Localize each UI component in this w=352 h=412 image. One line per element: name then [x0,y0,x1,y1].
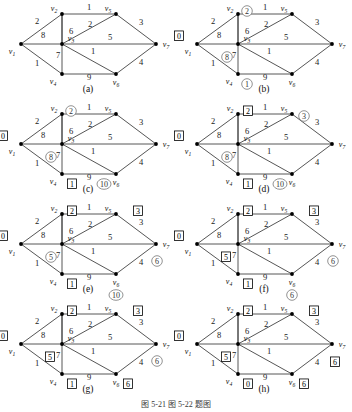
edge-weight-v6-v7: 4 [139,57,144,67]
panel-caption-b: (b) [176,84,352,94]
distance-value: 2 [69,107,73,116]
node-label-v5: v5 [105,104,112,114]
distance-label-f-v2: 2 [244,206,253,216]
edge-weight-v5-v7: 3 [315,117,319,127]
edge-weight-v2-v5: 1 [263,202,267,212]
edge-v5-v7 [116,314,156,344]
distance-label-g-v3: 5 [46,352,55,362]
distance-value: 5 [224,253,228,262]
node-label-v2: v2 [227,304,234,314]
node-label-v7: v7 [339,340,346,350]
node-v5 [114,212,118,216]
node-label-v2: v2 [51,204,58,214]
edge-weight-v3-v4: 7 [56,250,60,260]
distance-value: 8 [225,153,229,162]
edge-weight-v1-v4: 1 [211,158,215,168]
node-v1 [195,242,199,246]
edge-weight-v3-v4: 7 [232,50,236,60]
edge-weight-v1-v3: 8 [217,30,221,40]
node-label-v7: v7 [163,40,170,50]
edge-weight-v3-v7: 5 [108,332,112,342]
edge-weight-v6-v7: 4 [315,57,320,67]
node-label-v7: v7 [163,340,170,350]
node-label-v2: v2 [227,204,234,214]
node-label-v5: v5 [105,4,112,14]
edge-weight-v3-v4: 7 [232,150,236,160]
distance-label-f-v3: 5 [222,252,231,262]
node-v5 [114,112,118,116]
edge-weight-v5-v7: 3 [139,317,143,327]
edge-weight-v1-v2: 2 [211,116,215,126]
node-label-v3: v3 [244,334,251,344]
distance-value: 2 [70,207,74,216]
edge-weight-v5-v7: 3 [315,317,319,327]
node-label-v1: v1 [185,347,192,357]
panel-caption-f: (f) [176,284,352,294]
graph-a: 281162517934v1v2v3v4v5v6v7 [0,0,176,88]
edge-v6-v7 [292,44,332,74]
distance-label-e-v5: 3 [134,206,143,216]
distance-label-h-v1: 0 [175,331,184,341]
edge-weight-v5-v7: 3 [139,17,143,27]
distance-value: 0 [1,332,5,341]
node-v7 [154,142,158,146]
node-v5 [290,12,294,16]
distance-value: 0 [177,132,181,141]
node-v3 [236,142,240,146]
edge-v6-v7 [116,144,156,174]
node-v6 [290,272,294,276]
node-v7 [154,42,158,46]
edge-v3-v6 [238,344,292,374]
node-v2 [60,312,64,316]
graph-f: 281162517934v1v2v3v4v5v6v70251366 [176,200,352,288]
edge-weight-v4-v6: 9 [87,172,91,182]
node-v1 [195,342,199,346]
node-label-v1: v1 [185,147,192,157]
distance-label-e-v3: 5 [46,252,57,263]
edge-weight-v1-v4: 1 [35,158,39,168]
edge-weight-v1-v4: 1 [35,358,39,368]
distance-label-e-v7: 6 [152,256,163,267]
distance-value: 5 [224,353,228,362]
node-label-v5: v5 [281,104,288,114]
node-v1 [19,42,23,46]
node-v1 [19,342,23,346]
node-v2 [60,112,64,116]
edge-v5-v7 [292,214,332,244]
node-label-v3: v3 [68,334,75,344]
node-v7 [154,242,158,246]
node-label-v2: v2 [227,4,234,14]
distance-value: 8 [225,53,229,62]
distance-label-b-v3: 8 [222,52,233,63]
edge-v5-v7 [116,14,156,44]
edge-weight-v3-v5: 2 [88,219,92,229]
edge-weight-v3-v7: 5 [284,332,288,342]
node-label-v1: v1 [185,247,192,257]
panel-b: 281162517934v1v2v3v4v5v6v70281(b) [176,0,352,100]
edge-v6-v7 [292,144,332,174]
edge-weight-v3-v6: 1 [267,46,271,56]
node-v4 [60,372,64,376]
edge-weight-v4-v6: 9 [263,272,267,282]
distance-label-e-v1: 0 [0,231,8,241]
distance-label-g-v5: 3 [134,306,143,316]
edge-weight-v6-v7: 4 [139,357,144,367]
node-v3 [60,342,64,346]
edge-weight-v3-v4: 7 [232,250,236,260]
node-label-v3: v3 [68,234,75,244]
edge-weight-v1-v3: 8 [41,330,45,340]
node-label-v3: v3 [68,134,75,144]
node-label-v7: v7 [163,240,170,250]
distance-label-c-v2: 2 [66,106,77,117]
node-v3 [236,342,240,346]
edge-weight-v3-v7: 5 [108,132,112,142]
edge-weight-v3-v5: 2 [88,119,92,129]
edge-weight-v3-v6: 1 [267,246,271,256]
node-v5 [290,212,294,216]
node-v3 [60,142,64,146]
edge-weight-v3-v4: 7 [232,350,236,360]
node-v4 [236,172,240,176]
edge-weight-v3-v4: 7 [56,350,60,360]
node-label-v7: v7 [339,140,346,150]
edge-weight-v1-v3: 8 [41,30,45,40]
